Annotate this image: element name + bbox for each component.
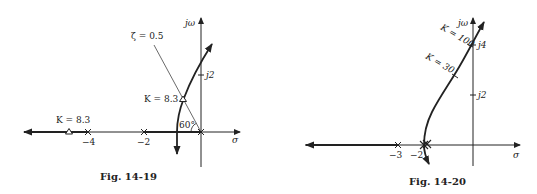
label-minus-2: −2 [137, 137, 150, 147]
gain-marker-complex [180, 96, 187, 102]
label-minus-4: −4 [82, 137, 96, 147]
label-minus-2: −2 [410, 150, 423, 160]
label-j2: j2 [204, 70, 215, 80]
figure-14-19: j2 jω σ ζ = 0.5 60° −4 −2 K = 8.3 K [24, 18, 240, 182]
locus-branch-upper [177, 44, 212, 132]
label-jw: jω [183, 18, 196, 28]
label-minus-3: −3 [389, 150, 403, 160]
label-zeta: ζ = 0.5 [131, 31, 164, 41]
label-gain-real: K = 8.3 [56, 115, 91, 125]
label-sigma: σ [513, 150, 520, 160]
label-gain-30: K = 30 [423, 51, 456, 76]
label-j2: j2 [476, 90, 487, 100]
figure-14-20: j2 j4 jω σ K = 100 K = 30 −3 −2 Fig. 14-… [305, 18, 520, 187]
label-j4: j4 [476, 40, 487, 50]
label-jw: jω [456, 18, 469, 28]
root-locus-figures: j2 jω σ ζ = 0.5 60° −4 −2 K = 8.3 K [0, 0, 537, 194]
label-gain-complex: K = 8.3 [144, 94, 179, 104]
caption-fig-14-20: Fig. 14-20 [409, 176, 466, 187]
caption-fig-14-19: Fig. 14-19 [100, 171, 157, 182]
label-angle: 60° [179, 120, 195, 130]
label-sigma: σ [232, 135, 239, 145]
